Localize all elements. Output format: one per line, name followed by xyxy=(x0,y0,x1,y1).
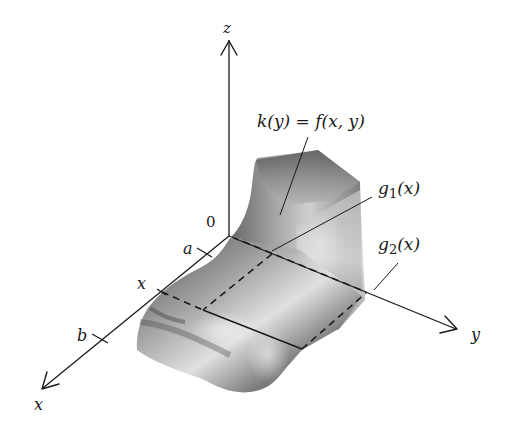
leader-g2 xyxy=(374,263,398,290)
g2-label: g2(x) xyxy=(378,234,420,257)
g1-sub: 1 xyxy=(389,186,397,201)
tick-b-label: b xyxy=(77,326,87,345)
iterated-integral-diagram: z x y 0 a x b k(y) = f(x, y) g1(x) g2(x) xyxy=(0,0,508,433)
tick-a-label: a xyxy=(183,239,193,258)
g2-arg: (x) xyxy=(397,234,420,254)
g1-arg: (x) xyxy=(397,178,420,198)
y-axis-arrowhead xyxy=(440,316,457,333)
tick-x-label: x xyxy=(137,274,146,293)
g2-base: g xyxy=(378,234,389,254)
origin-label: 0 xyxy=(206,213,216,231)
y-axis-label: y xyxy=(470,325,481,344)
g1-label: g1(x) xyxy=(378,178,420,201)
cross-section-label: k(y) = f(x, y) xyxy=(257,111,365,131)
x-axis-label: x xyxy=(34,395,43,414)
g2-sub: 2 xyxy=(389,242,397,257)
g1-base: g xyxy=(378,178,389,198)
z-axis-label: z xyxy=(222,19,231,37)
